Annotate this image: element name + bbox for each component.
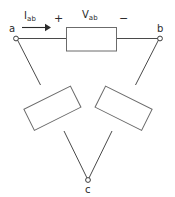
branch-bc (89, 39, 160, 179)
wire-resistor-ac-to-c (64, 131, 88, 179)
voltage-subscript: ab (89, 14, 98, 22)
polarity-minus-sign: − (119, 13, 128, 24)
resistor-bc (95, 86, 152, 130)
wire-resistor-bc-to-c (89, 131, 113, 179)
current-subscript: ab (27, 15, 36, 23)
current-label-iab: Iab (24, 11, 36, 21)
current-arrow-ab (22, 24, 51, 31)
voltage-symbol: V (82, 9, 89, 20)
resistor-ab (67, 28, 117, 52)
wire-b-to-resistor-bc (136, 39, 160, 85)
voltage-label-vab: Vab (82, 10, 98, 20)
node-dot-a (14, 36, 19, 41)
node-dot-b (158, 36, 163, 41)
polarity-plus-sign: + (54, 13, 63, 24)
wire-a-to-resistor-ac (17, 39, 41, 85)
resistor-ac (24, 86, 81, 130)
node-label-a: a (9, 24, 15, 34)
node-label-c: c (85, 185, 91, 195)
circuit-schematic-canvas (0, 0, 175, 197)
branch-ac (17, 39, 88, 179)
node-dot-c (86, 178, 91, 183)
circuit-diagram: a b c Iab Vab + − (0, 0, 175, 197)
node-label-b: b (157, 24, 163, 34)
branch-ab (17, 28, 159, 52)
